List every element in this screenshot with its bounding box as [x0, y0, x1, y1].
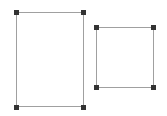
resize-handle-bottom-left[interactable]	[94, 85, 99, 90]
resize-handle-top-right[interactable]	[81, 10, 86, 15]
resize-handle-top-left[interactable]	[14, 10, 19, 15]
resize-handle-bottom-left[interactable]	[14, 105, 19, 110]
resize-handle-top-right[interactable]	[151, 25, 156, 30]
resize-handle-bottom-right[interactable]	[151, 85, 156, 90]
right-rectangle[interactable]	[96, 27, 154, 88]
left-rectangle[interactable]	[16, 12, 84, 107]
resize-handle-bottom-right[interactable]	[81, 105, 86, 110]
resize-handle-top-left[interactable]	[94, 25, 99, 30]
